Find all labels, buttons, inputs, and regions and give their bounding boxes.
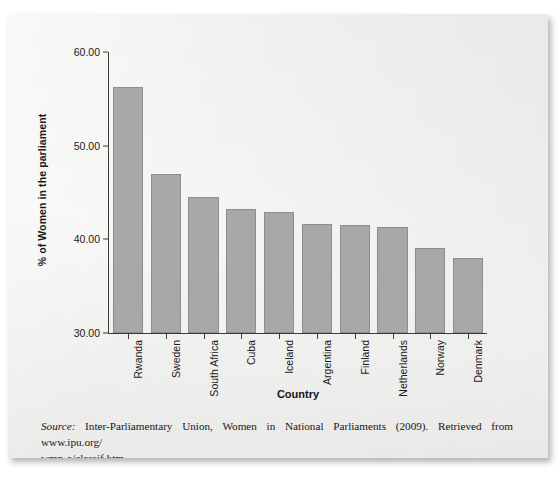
y-tick-label: 40.00 xyxy=(52,233,100,245)
bar-slot xyxy=(185,52,223,333)
bar-slot xyxy=(449,52,487,333)
x-axis-title: Country xyxy=(109,388,487,400)
x-tick-mark xyxy=(279,334,280,339)
scanned-page: % of Women in the parliament 30.0040.005… xyxy=(8,14,548,458)
x-tick-label-finland: Finland xyxy=(359,340,371,374)
plot-area xyxy=(109,52,487,333)
bar[interactable] xyxy=(453,258,483,333)
bar-slot xyxy=(147,52,185,333)
bar-slot xyxy=(260,52,298,333)
bar-slot xyxy=(298,52,336,333)
x-tick-label-argentina: Argentina xyxy=(321,340,333,385)
source-caption: Source: Inter-Parliamentary Union, Women… xyxy=(41,418,513,458)
x-axis-tick-marks xyxy=(109,334,487,339)
bar[interactable] xyxy=(377,227,407,333)
bar-slot xyxy=(336,52,374,333)
y-tick-label: 50.00 xyxy=(52,140,100,152)
bar[interactable] xyxy=(113,87,143,333)
bar[interactable] xyxy=(264,212,294,333)
source-citation: Inter-Parliamentary Union, Women in Nati… xyxy=(41,420,513,448)
x-tick-mark xyxy=(128,334,129,339)
bar[interactable] xyxy=(415,248,445,333)
bar-slot xyxy=(411,52,449,333)
x-tick-mark xyxy=(204,334,205,339)
x-tick-mark xyxy=(166,334,167,339)
x-tick-label-rwanda: Rwanda xyxy=(132,340,144,379)
x-tick-mark xyxy=(355,334,356,339)
source-label: Source: xyxy=(41,420,75,432)
bar[interactable] xyxy=(302,224,332,333)
x-tick-mark xyxy=(393,334,394,339)
x-tick-mark xyxy=(317,334,318,339)
x-tick-label-iceland: Iceland xyxy=(283,340,295,374)
x-tick-label-norway: Norway xyxy=(434,340,446,376)
bar[interactable] xyxy=(188,197,218,333)
y-tick-label: 30.00 xyxy=(52,327,100,339)
bar[interactable] xyxy=(151,174,181,333)
x-tick-label-sweden: Sweden xyxy=(170,340,182,378)
x-tick-label-cuba: Cuba xyxy=(245,340,257,365)
x-tick-mark xyxy=(430,334,431,339)
bar[interactable] xyxy=(226,209,256,333)
bar[interactable] xyxy=(340,225,370,333)
bar-slot xyxy=(222,52,260,333)
x-tick-label-denmark: Denmark xyxy=(472,340,484,383)
y-axis-tick-labels: 30.0040.0050.0060.00 xyxy=(48,14,100,406)
bar-slot xyxy=(374,52,412,333)
x-tick-mark xyxy=(468,334,469,339)
source-citation-line2: wmn-e/classif.htm. xyxy=(41,450,513,458)
y-tick-label: 60.00 xyxy=(52,46,100,58)
y-axis-title: % of Women in the parliament xyxy=(36,90,48,290)
bar-chart-figure: % of Women in the parliament 30.0040.005… xyxy=(8,14,548,406)
bar-slot xyxy=(109,52,147,333)
x-tick-mark xyxy=(241,334,242,339)
